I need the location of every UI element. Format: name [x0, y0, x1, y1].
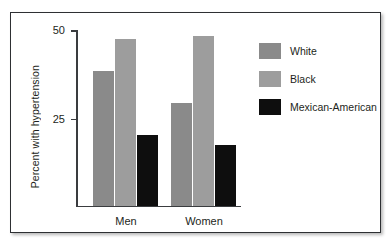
y-tick-25: 25	[71, 119, 76, 121]
chart-figure: Percent with hypertension 50 25 Men Wome…	[10, 12, 381, 233]
chart-legend: White Black Mexican-American	[259, 42, 377, 126]
plot-area: 50 25 Men Women	[76, 30, 241, 207]
bar-women-white	[171, 103, 192, 206]
legend-swatch-white	[259, 43, 281, 59]
legend-swatch-mexican-american	[259, 99, 281, 115]
bar-men-mexican-american	[137, 135, 158, 206]
legend-swatch-black	[259, 71, 281, 87]
y-axis-label: Percent with hypertension	[29, 65, 43, 188]
legend-label-mexican-american: Mexican-American	[290, 101, 377, 113]
x-axis-line	[76, 206, 241, 208]
x-group-label-men: Men	[115, 215, 136, 227]
bar-men-black	[115, 39, 136, 205]
legend-item-white: White	[259, 42, 377, 59]
y-axis-line	[76, 30, 78, 207]
x-group-label-women: Women	[185, 215, 223, 227]
legend-item-black: Black	[259, 70, 377, 87]
bar-women-mexican-american	[215, 145, 236, 205]
y-tick-50: 50	[71, 30, 76, 32]
bar-men-white	[93, 71, 114, 206]
legend-label-white: White	[290, 45, 317, 57]
legend-label-black: Black	[290, 73, 316, 85]
bar-women-black	[193, 36, 214, 206]
y-tick-label-50: 50	[53, 24, 65, 36]
y-tick-label-25: 25	[53, 113, 65, 125]
legend-item-mexican-american: Mexican-American	[259, 98, 377, 115]
